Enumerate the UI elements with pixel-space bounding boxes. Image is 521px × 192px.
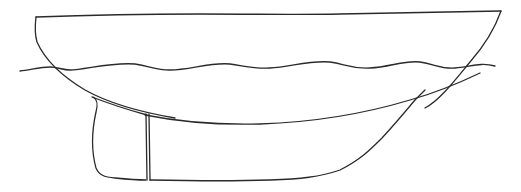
- keel-bottom: [150, 90, 425, 181]
- bow: [425, 11, 501, 108]
- boat-drawing: [0, 0, 521, 192]
- boat-hull-illustration: [0, 0, 521, 192]
- waterline: [20, 62, 495, 71]
- keel-divider-a: [146, 114, 147, 180]
- rudder: [93, 97, 146, 180]
- deck-line: [36, 11, 501, 17]
- hull-bottom: [145, 73, 480, 124]
- keel-divider-b: [149, 114, 150, 180]
- keel-top-inner: [92, 97, 147, 115]
